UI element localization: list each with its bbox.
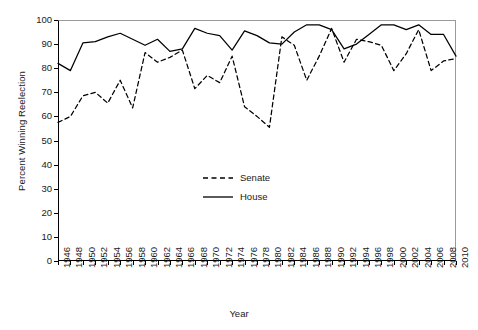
y-tick-label: 10 — [28, 232, 52, 242]
x-tick-mark — [282, 261, 283, 265]
dashed-line-icon — [203, 173, 233, 183]
x-tick-mark — [319, 261, 320, 265]
y-tick-label: 100 — [28, 15, 52, 25]
x-tick-mark — [419, 261, 420, 265]
y-tick-label: 20 — [28, 208, 52, 218]
house-line — [58, 25, 456, 71]
x-tick-mark — [369, 261, 370, 265]
chart-legend: Senate House — [203, 168, 270, 206]
x-tick-mark — [257, 261, 258, 265]
y-tick-label: 0 — [28, 256, 52, 266]
x-tick-mark — [357, 261, 358, 265]
x-tick-mark — [108, 261, 109, 265]
x-tick-mark — [332, 261, 333, 265]
x-tick-mark — [294, 261, 295, 265]
y-tick-label: 50 — [28, 136, 52, 146]
x-tick-mark — [170, 261, 171, 265]
senate-line — [58, 28, 456, 127]
x-tick-mark — [394, 261, 395, 265]
x-tick-mark — [83, 261, 84, 265]
plot-area — [58, 20, 456, 261]
x-tick-mark — [70, 261, 71, 265]
legend-item-senate: Senate — [203, 168, 270, 187]
y-tick-label: 80 — [28, 63, 52, 73]
x-tick-mark — [381, 261, 382, 265]
legend-item-house: House — [203, 187, 270, 206]
x-tick-mark — [232, 261, 233, 265]
x-tick-mark — [120, 261, 121, 265]
legend-label-house: House — [240, 192, 267, 202]
y-tick-label: 70 — [28, 88, 52, 98]
x-tick-mark — [133, 261, 134, 265]
x-tick-mark — [431, 261, 432, 265]
x-tick-mark — [245, 261, 246, 265]
series-canvas — [58, 20, 458, 263]
x-tick-mark — [95, 261, 96, 265]
y-tick-label: 40 — [28, 160, 52, 170]
x-tick-mark — [58, 261, 59, 265]
x-tick-mark — [344, 261, 345, 265]
x-tick-mark — [145, 261, 146, 265]
x-tick-mark — [406, 261, 407, 265]
solid-line-icon — [203, 192, 233, 202]
x-tick-mark — [158, 261, 159, 265]
x-tick-mark — [220, 261, 221, 265]
y-tick-label: 30 — [28, 184, 52, 194]
legend-label-senate: Senate — [240, 173, 270, 183]
x-tick-mark — [182, 261, 183, 265]
y-tick-label: 60 — [28, 112, 52, 122]
y-tick-label: 90 — [28, 39, 52, 49]
x-axis-title: Year — [0, 308, 478, 319]
reelection-rate-chart: Percent Winning Reelection 0102030405060… — [0, 0, 478, 330]
x-tick-mark — [207, 261, 208, 265]
x-tick-mark — [195, 261, 196, 265]
x-tick-mark — [456, 261, 457, 265]
x-tick-mark — [269, 261, 270, 265]
x-tick-mark — [444, 261, 445, 265]
x-tick-mark — [307, 261, 308, 265]
x-tick-label: 2010 — [460, 247, 470, 268]
